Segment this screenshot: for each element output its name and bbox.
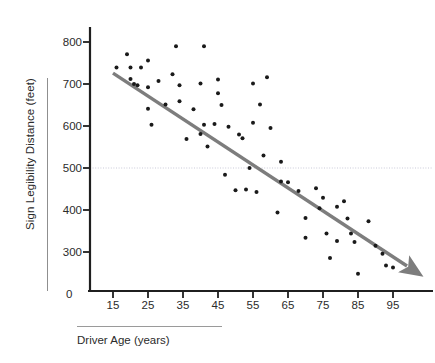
y-axis-tick-labels: 300400500600700800 (48, 0, 82, 363)
data-point (129, 77, 133, 81)
data-point (244, 187, 248, 191)
data-point (346, 216, 350, 220)
data-point (146, 58, 150, 62)
data-point (237, 132, 241, 136)
data-point (321, 196, 325, 200)
data-point (125, 52, 129, 56)
data-point (157, 79, 161, 83)
data-point (374, 244, 378, 248)
data-point (381, 252, 385, 256)
x-axis-title: Driver Age (years) (77, 334, 170, 346)
data-point (356, 272, 360, 276)
data-point (335, 239, 339, 243)
data-point (234, 188, 238, 192)
data-point (328, 256, 332, 260)
trend-line (113, 73, 407, 266)
data-point (391, 266, 395, 270)
data-point (136, 83, 140, 87)
y-tick-label: 400 (48, 204, 82, 216)
x-tick-label: 95 (378, 299, 408, 311)
data-point (150, 123, 154, 127)
y-tick-label: 600 (48, 120, 82, 132)
y-tick-label: 300 (48, 246, 82, 258)
data-point (199, 132, 203, 136)
data-point (132, 82, 136, 86)
data-point (325, 232, 329, 236)
x-tick-label: 15 (98, 299, 128, 311)
data-point (223, 173, 227, 177)
data-point (349, 232, 353, 236)
data-point (146, 85, 150, 89)
data-point (171, 72, 175, 76)
trend-line-group (113, 73, 407, 266)
data-point (139, 66, 143, 70)
data-point (178, 99, 182, 103)
scatter-chart-figure: Sign Legibility Distance (feet) 30040050… (0, 0, 435, 363)
data-point (258, 103, 262, 107)
x-tick-label: 25 (133, 299, 163, 311)
data-point (146, 107, 150, 111)
data-point (206, 145, 210, 149)
data-point (199, 82, 203, 86)
data-point (342, 199, 346, 203)
y-tick-label: 700 (48, 78, 82, 90)
data-point (216, 77, 220, 81)
data-point (213, 122, 217, 126)
x-axis-title-rule (77, 326, 222, 327)
y-tick-label: 500 (48, 162, 82, 174)
data-point (251, 82, 255, 86)
data-point (174, 44, 178, 48)
origin-label: 0 (66, 288, 72, 300)
data-point (192, 107, 196, 111)
y-tick-label: 800 (48, 36, 82, 48)
data-point (297, 189, 301, 193)
x-tick-label: 75 (308, 299, 338, 311)
data-point (255, 190, 259, 194)
data-point (276, 211, 280, 215)
data-point (262, 153, 266, 157)
x-tick-label: 65 (273, 299, 303, 311)
data-point (279, 160, 283, 164)
data-point (227, 125, 231, 129)
x-tick-label: 35 (168, 299, 198, 311)
x-tick-label: 45 (203, 299, 233, 311)
data-point (269, 126, 273, 130)
data-point (265, 75, 269, 79)
y-axis-title: Sign Legibility Distance (feet) (24, 47, 36, 262)
data-point (318, 206, 322, 210)
data-point (367, 219, 371, 223)
data-point (115, 66, 119, 70)
data-point (129, 66, 133, 70)
data-point (304, 236, 308, 240)
data-point (202, 123, 206, 127)
data-point (353, 240, 357, 244)
data-point (384, 263, 388, 267)
data-point (279, 179, 283, 183)
x-tick-label: 85 (343, 299, 373, 311)
data-point (251, 121, 255, 125)
data-point (304, 216, 308, 220)
data-point (178, 83, 182, 87)
data-point (185, 137, 189, 141)
data-point (335, 205, 339, 209)
x-tick-label: 55 (238, 299, 268, 311)
data-point (241, 136, 245, 140)
data-point (248, 166, 252, 170)
data-point (164, 103, 168, 107)
data-point (314, 186, 318, 190)
data-point (216, 91, 220, 95)
data-point-group (115, 44, 396, 276)
data-point (220, 103, 224, 107)
data-point (286, 180, 290, 184)
data-point (202, 44, 206, 48)
